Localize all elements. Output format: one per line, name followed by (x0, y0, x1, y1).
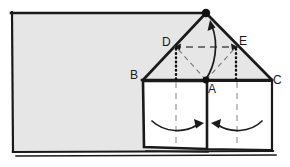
folding-diagram-svg: A B C D E (0, 0, 290, 167)
apex-vertex-dot (202, 9, 210, 17)
left-panel (143, 81, 207, 149)
vertex-label-d: D (162, 35, 171, 49)
vertex-label-b: B (130, 68, 138, 82)
sheet-left-edge (12, 12, 13, 152)
vertex-label-e: E (239, 34, 247, 48)
figure-container: A B C D E (0, 0, 290, 167)
vertex-label-a: A (208, 82, 216, 96)
sheet-bottom-edge (13, 151, 273, 152)
left-panel-lift-shadow (146, 151, 208, 152)
sheet-bottom-edge-shadow (16, 155, 276, 156)
vertex-label-c: C (273, 73, 282, 87)
